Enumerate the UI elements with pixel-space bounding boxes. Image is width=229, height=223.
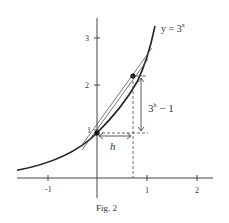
y-tick-label: 3 — [85, 34, 89, 43]
y-tick-label: 2 — [85, 81, 89, 90]
figure-caption: Fig. 2 — [96, 203, 117, 213]
curve-label: y = 3x — [161, 22, 185, 34]
rise-label: 3h − 1 — [148, 102, 174, 114]
figure-canvas: -1 1 2 1 2 3 y = 3x 3h − 1 h Fig. 2 — [0, 0, 229, 223]
run-label: h — [110, 140, 116, 152]
exponential-curve-smooth — [17, 26, 155, 170]
x-tick-label: 1 — [145, 186, 149, 195]
x-tick-label: 2 — [195, 186, 199, 195]
x-tick-label: -1 — [45, 185, 52, 194]
